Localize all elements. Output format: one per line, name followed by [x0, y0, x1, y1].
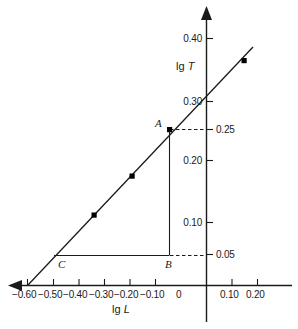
x-tick-label: 0	[176, 289, 181, 300]
vertex-label-b: B	[165, 258, 172, 270]
x-axis-title-prefix: lg	[112, 303, 124, 315]
y-tick-label-guide: 0.25	[216, 124, 235, 135]
x-axis-title: lg L	[112, 303, 130, 315]
y-axis-title-prefix: lg	[176, 60, 188, 72]
data-point	[242, 58, 247, 63]
y-axis-arrowhead-icon	[201, 6, 212, 20]
x-tick-label: −0.10	[140, 289, 164, 300]
x-tick-label: −0.50	[38, 289, 62, 300]
y-tick-label: 0.20	[178, 155, 202, 166]
data-point	[130, 174, 135, 179]
data-point	[92, 213, 97, 218]
y-tick-label: 0.30	[178, 96, 202, 107]
x-tick-label: −0.60	[12, 289, 36, 300]
x-tick-label: 0.10	[220, 289, 239, 300]
y-tick-label: 0.10	[178, 217, 202, 228]
x-axis-ticks	[28, 279, 258, 286]
x-tick-label: 0.20	[246, 289, 265, 300]
vertex-label-c: C	[58, 258, 65, 270]
y-tick-label-guide: 0.05	[216, 249, 235, 260]
x-tick-label: −0.20	[114, 289, 138, 300]
chart-container: −0.60 −0.50 −0.40 −0.30 −0.20 −0.10 0 0.…	[0, 0, 298, 329]
x-axis-title-symbol: L	[124, 303, 130, 315]
data-point	[167, 127, 172, 132]
chart-plot-area	[0, 0, 298, 329]
x-tick-label: −0.40	[63, 289, 87, 300]
vertex-label-a: A	[155, 117, 162, 129]
y-axis-ticks	[207, 39, 214, 255]
y-axis-title: lg T	[176, 60, 194, 72]
y-tick-label: 0.40	[178, 33, 202, 44]
y-axis-title-symbol: T	[188, 60, 195, 72]
x-tick-label: −0.30	[89, 289, 113, 300]
